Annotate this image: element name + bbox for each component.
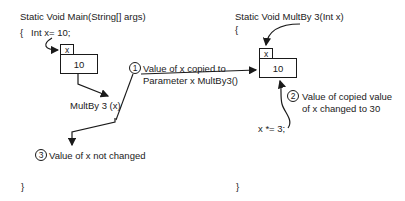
multby-close-brace: } bbox=[236, 182, 239, 192]
multby-statement: x *= 3; bbox=[258, 124, 285, 134]
main-close-brace: } bbox=[21, 182, 24, 192]
step-1-number: 1 bbox=[133, 63, 138, 73]
step-1-line1: Value of x copied to bbox=[143, 64, 226, 74]
main-var-value-box: 10 bbox=[60, 54, 98, 74]
multby-signature: Static Void MultBy 3(Int x) bbox=[235, 12, 344, 22]
step-3-badge: 3 bbox=[35, 149, 47, 161]
step-2-number: 2 bbox=[291, 91, 296, 101]
step-1-badge: 1 bbox=[129, 62, 141, 74]
step-3-line1: Value of x not changed bbox=[49, 151, 145, 161]
main-var-value: 10 bbox=[74, 59, 85, 70]
multby-var-value: 10 bbox=[273, 63, 284, 74]
step-2-badge: 2 bbox=[287, 90, 299, 102]
main-call: MultBy 3 (x) bbox=[70, 101, 121, 111]
step-2-line2: of x changed to 30 bbox=[302, 104, 380, 114]
main-declaration: Int x= 10; bbox=[31, 28, 70, 38]
step-2-line1: Value of copied value bbox=[302, 92, 392, 102]
main-open-brace: { bbox=[20, 28, 23, 38]
multby-var-value-box: 10 bbox=[259, 58, 297, 78]
step-3-number: 3 bbox=[39, 150, 44, 160]
multby-var-label: x bbox=[264, 49, 268, 59]
main-var-label: x bbox=[65, 45, 69, 55]
main-signature: Static Void Main(String[] args) bbox=[20, 12, 146, 22]
step-1-line2: Parameter x MultBy3() bbox=[143, 76, 238, 86]
multby-open-brace: { bbox=[235, 25, 238, 35]
